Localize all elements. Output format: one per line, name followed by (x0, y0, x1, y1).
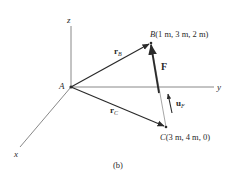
x-axis (20, 87, 71, 147)
point-c-label: C(3 m, 4 m, 0) (160, 132, 210, 142)
vector-f-label: F (161, 61, 167, 72)
figure-caption: (b) (113, 160, 123, 170)
position-vector-diagram: z y x A B(1 m, 3 m, 2 m) C(3 m, 4 m, 0) … (0, 0, 236, 182)
point-a-label: A (58, 81, 65, 91)
vector-f (151, 45, 159, 93)
point-c (165, 126, 168, 129)
point-b (150, 42, 153, 45)
x-axis-label: x (13, 149, 18, 159)
point-a (69, 85, 72, 88)
y-axis-label: y (216, 82, 221, 92)
point-b-coords: (1 m, 3 m, 2 m) (155, 29, 208, 39)
vector-rc (71, 87, 164, 126)
vector-uf (168, 94, 172, 113)
point-b-label: B(1 m, 3 m, 2 m) (150, 29, 208, 39)
z-axis-label: z (66, 15, 71, 25)
vector-rb-label: rB (114, 46, 122, 57)
vector-rb (71, 44, 149, 87)
point-c-coords: (3 m, 4 m, 0) (166, 132, 211, 142)
vector-uf-label: uF (176, 98, 185, 109)
